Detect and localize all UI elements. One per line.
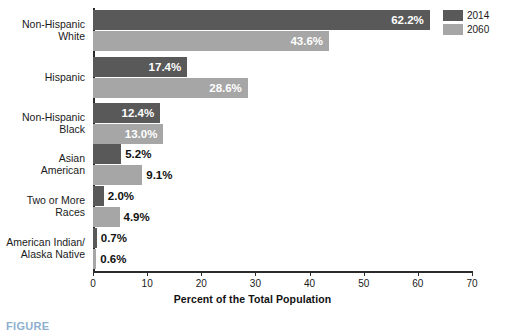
legend-label: 2014 <box>467 10 489 21</box>
figure-caption: FIGURE <box>6 320 49 332</box>
bar-value-label: 0.6% <box>100 249 126 269</box>
bar-value-label: 4.9% <box>124 207 150 227</box>
bar-value-label: 12.4% <box>93 103 154 123</box>
x-axis-tick <box>310 271 311 276</box>
x-axis-tick-label: 0 <box>90 278 96 289</box>
category-label: Two or More Races <box>27 195 85 218</box>
x-axis-tick-label: 40 <box>304 278 315 289</box>
bar-2014-5 <box>93 186 104 206</box>
bar-value-label: 28.6% <box>93 78 242 98</box>
x-axis-tick-label: 50 <box>358 278 369 289</box>
x-axis-tick <box>201 271 202 276</box>
x-axis-tick <box>364 271 365 276</box>
bar-value-label: 62.2% <box>93 10 424 30</box>
legend-item-2060: 2060 <box>443 24 503 35</box>
x-axis-tick <box>472 271 473 276</box>
x-axis-tick-label: 30 <box>250 278 261 289</box>
bar-2014-6 <box>93 228 97 248</box>
legend-item-2014: 2014 <box>443 10 503 21</box>
bar-value-label: 2.0% <box>108 186 134 206</box>
legend-swatch-2060 <box>443 24 463 35</box>
x-axis-title: Percent of the Total Population <box>0 293 505 305</box>
bar-2060-4 <box>93 165 142 185</box>
category-label: Asian American <box>41 153 85 176</box>
bar-value-label: 43.6% <box>93 31 323 51</box>
x-axis-tick <box>255 271 256 276</box>
x-axis-line <box>93 271 473 273</box>
bar-2060-6 <box>93 249 96 269</box>
category-label: Non-Hispanic Black <box>22 112 85 135</box>
bar-value-label: 13.0% <box>93 124 157 144</box>
x-axis-tick-label: 70 <box>466 278 477 289</box>
bar-value-label: 0.7% <box>101 228 127 248</box>
x-axis-tick-label: 10 <box>142 278 153 289</box>
x-axis-tick <box>418 271 419 276</box>
category-label: Non-Hispanic White <box>22 19 85 42</box>
bar-value-label: 9.1% <box>146 165 172 185</box>
bar-2014-4 <box>93 144 121 164</box>
category-label: Hispanic <box>45 72 85 84</box>
bar-2060-5 <box>93 207 120 227</box>
bar-value-label: 5.2% <box>125 144 151 164</box>
category-label: American Indian/ Alaska Native <box>6 237 85 260</box>
x-axis-tick <box>93 271 94 276</box>
bar-value-label: 17.4% <box>93 57 181 77</box>
x-axis-tick-label: 20 <box>196 278 207 289</box>
x-axis-tick <box>147 271 148 276</box>
legend-label: 2060 <box>467 24 489 35</box>
x-axis-tick-label: 60 <box>412 278 423 289</box>
category-label-column: Non-Hispanic WhiteHispanicNon-Hispanic B… <box>0 0 90 270</box>
chart-legend: 20142060 <box>443 10 503 38</box>
legend-swatch-2014 <box>443 10 463 21</box>
